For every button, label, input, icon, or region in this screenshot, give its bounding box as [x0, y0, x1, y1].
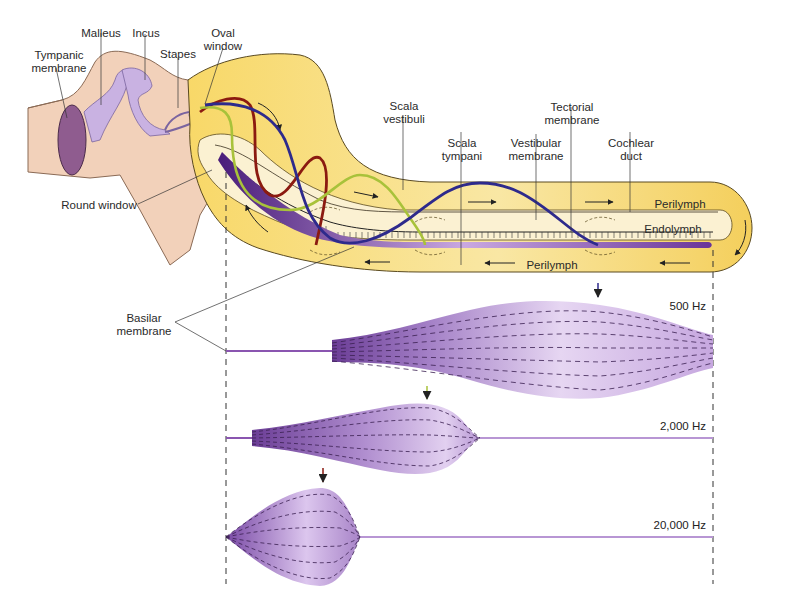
label-stapes: Stapes: [158, 48, 198, 61]
label-perilymph-bottom: Perilymph: [520, 259, 584, 272]
label-tectorial-membrane: Tectorial membrane: [540, 101, 604, 127]
label-cochlear-duct: Cochlear duct: [604, 137, 658, 163]
label-round-window: Round window: [58, 199, 140, 212]
label-tympanic-membrane: Tympanic membrane: [24, 49, 94, 75]
label-2000hz: 2,000 Hz: [630, 420, 706, 432]
label-basilar-membrane: Basilar membrane: [116, 312, 172, 338]
label-malleus: Malleus: [78, 27, 124, 40]
label-perilymph-top: Perilymph: [650, 198, 710, 211]
label-incus: Incus: [128, 27, 164, 40]
tympanic-membrane: [58, 105, 86, 175]
label-scala-tympani: Scala tympani: [436, 137, 488, 163]
label-20000hz: 20,000 Hz: [620, 519, 706, 531]
label-oval-window: Oval window: [200, 27, 246, 53]
label-vestibular-membrane: Vestibular membrane: [504, 137, 568, 163]
label-endolymph: Endolymph: [640, 223, 706, 236]
label-scala-vestibuli: Scala vestibuli: [376, 100, 432, 126]
label-500hz: 500 Hz: [640, 300, 706, 312]
